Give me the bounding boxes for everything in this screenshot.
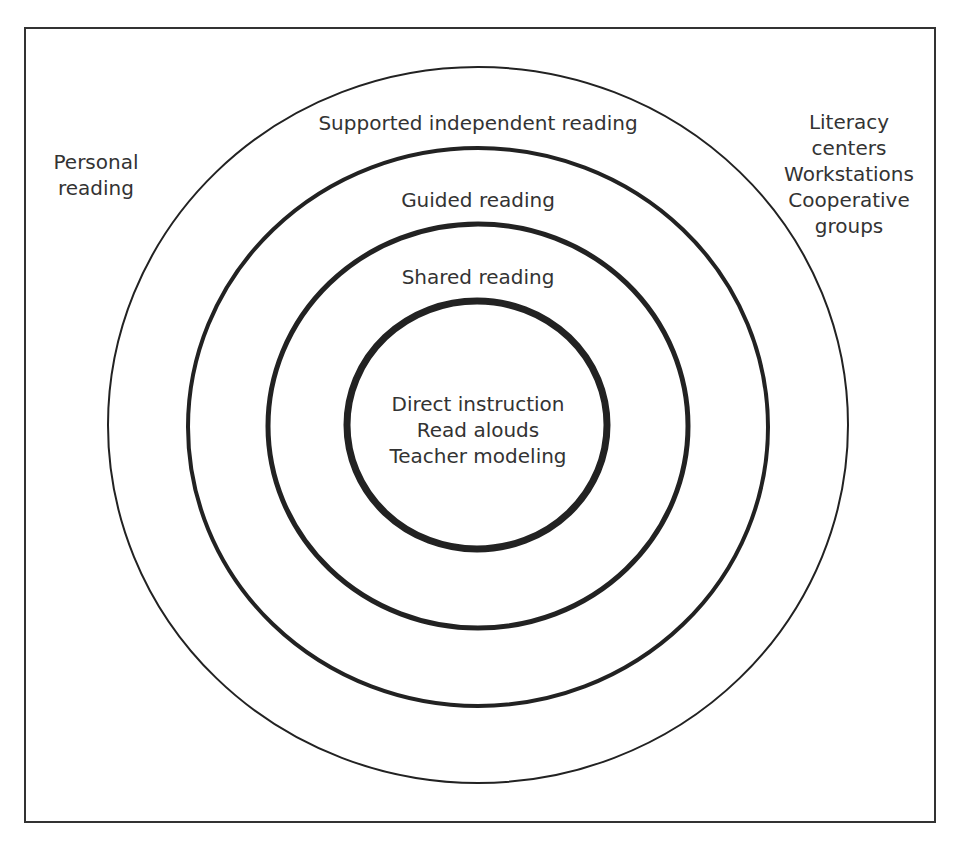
label-line: groups <box>774 213 924 239</box>
label-guided-reading: Guided reading <box>328 187 628 213</box>
label-line: Direct instruction <box>358 391 598 417</box>
label-line: Literacy <box>774 109 924 135</box>
label-shared-reading: Shared reading <box>328 264 628 290</box>
label-center: Direct instruction Read alouds Teacher m… <box>358 391 598 469</box>
label-line: Cooperative <box>774 187 924 213</box>
label-line: centers <box>774 135 924 161</box>
label-supported-independent-reading: Supported independent reading <box>278 110 678 136</box>
label-line: Personal <box>48 149 144 175</box>
label-literacy-centers: Literacy centers Workstations Cooperativ… <box>774 109 924 239</box>
label-personal-reading: Personal reading <box>48 149 144 201</box>
label-line: reading <box>48 175 144 201</box>
label-line: Workstations <box>774 161 924 187</box>
label-line: Teacher modeling <box>358 443 598 469</box>
label-line: Read alouds <box>358 417 598 443</box>
